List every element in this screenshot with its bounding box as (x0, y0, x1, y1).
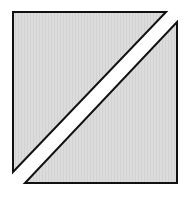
diagram-canvas (0, 0, 184, 198)
